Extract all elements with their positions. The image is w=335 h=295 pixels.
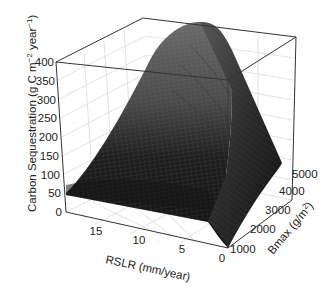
- svg-text:4000: 4000: [279, 185, 305, 197]
- svg-text:10: 10: [133, 234, 146, 246]
- svg-text:0: 0: [56, 206, 62, 218]
- svg-text:5000: 5000: [292, 168, 318, 180]
- svg-text:50: 50: [48, 187, 61, 199]
- x-axis-label: RSLR (mm/year): [105, 253, 192, 283]
- svg-text:0: 0: [219, 252, 225, 264]
- svg-text:5: 5: [179, 243, 185, 255]
- svg-text:250: 250: [38, 112, 57, 124]
- svg-text:100: 100: [41, 169, 60, 181]
- surface-plot-figure: 400 350 300 250 200 150 100 50 0 15 10 5…: [0, 0, 335, 295]
- svg-text:300: 300: [37, 94, 56, 106]
- svg-text:3000: 3000: [265, 204, 291, 216]
- z-axis-label: Carbon Sequestration (g C m−2 year−1): [25, 15, 38, 212]
- svg-text:15: 15: [90, 225, 103, 237]
- surface: [66, 22, 282, 248]
- svg-text:150: 150: [40, 150, 59, 162]
- svg-text:1000: 1000: [230, 243, 256, 255]
- z-axis-ticks: 400 350 300 250 200 150 100 50 0: [35, 56, 62, 218]
- svg-text:2000: 2000: [250, 223, 276, 235]
- svg-text:200: 200: [39, 131, 58, 143]
- svg-text:350: 350: [36, 75, 55, 87]
